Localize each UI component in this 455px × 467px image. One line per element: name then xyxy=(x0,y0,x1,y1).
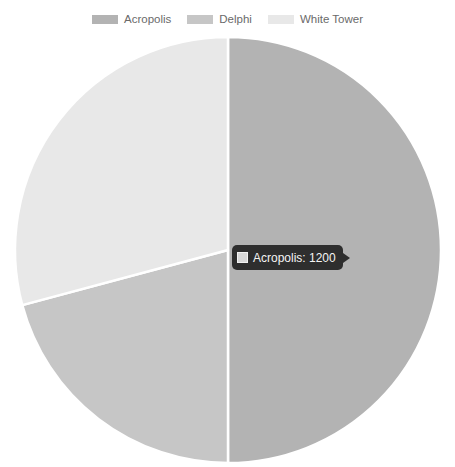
legend-item-label: Acropolis xyxy=(124,13,171,26)
pie-chart xyxy=(0,32,455,467)
chart-tooltip: Acropolis: 1200 xyxy=(232,245,343,270)
pie-slice-group xyxy=(15,37,441,463)
legend-item-delphi[interactable]: Delphi xyxy=(187,13,252,26)
legend-item-label: White Tower xyxy=(300,13,363,26)
legend-swatch-icon xyxy=(92,15,118,24)
legend-swatch-icon xyxy=(268,15,294,24)
tooltip-pointer-icon xyxy=(343,253,350,263)
legend-item-white-tower[interactable]: White Tower xyxy=(268,13,363,26)
legend-item-label: Delphi xyxy=(219,13,252,26)
pie-chart-svg xyxy=(0,32,455,467)
tooltip-swatch-icon xyxy=(237,252,248,263)
tooltip-label: Acropolis: 1200 xyxy=(253,251,336,265)
legend-swatch-icon xyxy=(187,15,213,24)
legend-item-acropolis[interactable]: Acropolis xyxy=(92,13,171,26)
chart-legend: Acropolis Delphi White Tower xyxy=(0,13,455,26)
